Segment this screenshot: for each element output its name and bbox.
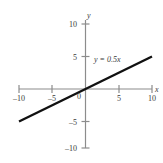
plot-area: –10 –5 5 10 10 5 –5 –10 0 y x y = 0.5x — [0, 0, 163, 163]
y-tick-label-neg10: –10 — [64, 144, 77, 153]
x-tick-label-10: 10 — [148, 94, 156, 103]
y-tick-label-10: 10 — [69, 20, 77, 29]
x-tick-label-neg10: –10 — [12, 94, 25, 103]
y-tick-label-5: 5 — [73, 53, 77, 62]
equation-annotation: y = 0.5x — [93, 55, 121, 64]
x-axis-name: x — [154, 85, 159, 94]
x-tick-label-neg5: –5 — [47, 94, 56, 103]
origin-label: 0 — [77, 92, 81, 101]
y-axis-name: y — [86, 11, 91, 20]
y-tick-label-neg5: –5 — [68, 118, 77, 127]
x-tick-label-5: 5 — [117, 94, 121, 103]
line-graph-figure: –10 –5 5 10 10 5 –5 –10 0 y x y = 0.5x — [0, 0, 163, 163]
